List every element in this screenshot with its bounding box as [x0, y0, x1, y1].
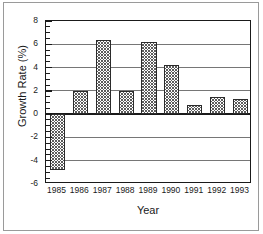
x-tick-label: 1986 — [70, 186, 89, 195]
y-tick-minor — [46, 149, 50, 150]
y-tick-major — [46, 90, 52, 91]
bar — [233, 99, 248, 114]
y-tick-label: -2 — [30, 132, 38, 141]
y-tick-minor — [46, 26, 50, 27]
y-tick-major — [46, 113, 52, 114]
plot-area — [45, 20, 251, 183]
y-tick-major — [46, 67, 52, 68]
y-tick-label: -4 — [30, 156, 38, 165]
y-tick-minor — [46, 172, 50, 173]
y-tick-label: 2 — [33, 86, 38, 95]
chart-figure: 86420-2-4-6 1985198619871988198919901991… — [0, 0, 263, 234]
y-tick-minor — [46, 108, 50, 109]
y-tick-label: 0 — [33, 109, 38, 118]
y-tick-label: 6 — [33, 39, 38, 48]
y-tick-minor — [46, 154, 50, 155]
x-axis-tick-labels: 198519861987198819891990199119921993 — [45, 186, 251, 200]
y-tick-major — [46, 137, 52, 138]
bar — [141, 42, 156, 114]
y-tick-major — [46, 44, 52, 45]
y-tick-label: -6 — [30, 179, 38, 188]
y-tick-minor — [46, 96, 50, 97]
bar — [96, 40, 111, 115]
y-tick-major — [46, 160, 52, 161]
y-tick-minor — [46, 79, 50, 80]
y-tick-minor — [46, 32, 50, 33]
y-tick-minor — [46, 125, 50, 126]
x-tick-label: 1992 — [207, 186, 226, 195]
bar — [119, 91, 134, 114]
y-tick-label: 4 — [33, 63, 38, 72]
bar — [50, 114, 65, 170]
y-tick-minor — [46, 166, 50, 167]
bar — [164, 65, 179, 114]
x-tick-label: 1989 — [139, 186, 158, 195]
x-tick-label: 1988 — [116, 186, 135, 195]
y-tick-major — [46, 20, 52, 21]
y-tick-minor — [46, 55, 50, 56]
x-tick-label: 1991 — [184, 186, 203, 195]
x-tick-label: 1987 — [93, 186, 112, 195]
y-tick-minor — [46, 85, 50, 86]
y-tick-minor — [46, 119, 50, 120]
y-tick-minor — [46, 143, 50, 144]
x-axis-title: Year — [45, 204, 251, 216]
y-tick-minor — [46, 50, 50, 51]
bar-series — [46, 21, 250, 182]
x-tick-label: 1993 — [230, 186, 249, 195]
y-tick-minor — [46, 38, 50, 39]
y-tick-label: 8 — [33, 16, 38, 25]
bar — [73, 91, 88, 114]
y-tick-minor — [46, 131, 50, 132]
y-tick-minor — [46, 61, 50, 62]
bar — [210, 97, 225, 114]
bar — [187, 105, 202, 114]
y-tick-minor — [46, 178, 50, 179]
y-axis-title: Growth Rate (%) — [16, 26, 28, 146]
x-tick-label: 1985 — [47, 186, 66, 195]
y-tick-minor — [46, 73, 50, 74]
y-tick-minor — [46, 102, 50, 103]
x-tick-label: 1990 — [161, 186, 180, 195]
